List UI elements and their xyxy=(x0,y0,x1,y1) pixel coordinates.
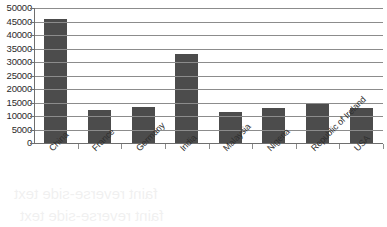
gridline xyxy=(34,116,383,117)
y-axis-tick xyxy=(30,103,35,104)
y-axis-tick-label: 40000 xyxy=(0,30,32,40)
gridline xyxy=(34,8,383,9)
gridline xyxy=(34,22,383,23)
y-axis-tick-label: 20000 xyxy=(0,84,32,94)
bar-chart: 5000045000400003500030000250002000015000… xyxy=(0,0,387,227)
y-axis-tick-label: 10000 xyxy=(0,111,32,121)
y-axis-tick xyxy=(30,76,35,77)
y-axis-tick-label: 50000 xyxy=(0,3,32,13)
y-axis-tick xyxy=(30,130,35,131)
y-axis-tick-label: 30000 xyxy=(0,57,32,67)
y-axis-tick-label: 45000 xyxy=(0,17,32,27)
y-axis-tick-labels: 5000045000400003500030000250002000015000… xyxy=(0,0,32,148)
y-axis-tick xyxy=(30,8,35,9)
y-axis-tick xyxy=(30,89,35,90)
y-axis-tick xyxy=(30,62,35,63)
y-axis-tick-label: 25000 xyxy=(0,71,32,81)
y-axis-tick-label: 5000 xyxy=(0,125,32,135)
y-axis-tick xyxy=(30,49,35,50)
gridline xyxy=(34,35,383,36)
gridline xyxy=(34,103,383,104)
y-axis-tick xyxy=(30,35,35,36)
y-axis-tick xyxy=(30,116,35,117)
bar xyxy=(44,19,67,143)
y-axis-tick xyxy=(30,143,35,144)
gridline xyxy=(34,76,383,77)
x-axis-category-labels: ChinaFranceGermanyIndiaMalaysiaNigeriaRe… xyxy=(34,146,383,226)
y-axis-tick-label: 35000 xyxy=(0,44,32,54)
gridline xyxy=(34,49,383,50)
gridline xyxy=(34,62,383,63)
y-axis-tick-label: 15000 xyxy=(0,98,32,108)
x-axis-tick xyxy=(383,144,384,149)
gridline xyxy=(34,89,383,90)
y-axis-tick-label: 0 xyxy=(0,138,32,148)
y-axis-tick xyxy=(30,22,35,23)
